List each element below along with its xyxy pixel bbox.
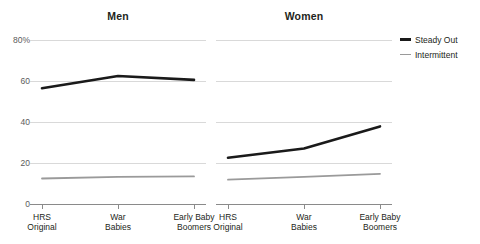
gridline-40 (30, 122, 206, 123)
x-tick-label: HRS Original (10, 212, 74, 233)
y-tick-label-0: 0 (4, 200, 30, 208)
panel-title-women: Women (216, 10, 392, 22)
x-tick-label: HRS Original (196, 212, 260, 233)
series-line-intermittent-men (42, 176, 194, 178)
gridline-20 (216, 163, 392, 164)
gridline-60 (30, 81, 206, 82)
y-axis-tick-labels: 020406080% (0, 0, 30, 244)
x-tick (118, 205, 119, 209)
legend-label-steady-out: Steady Out (415, 35, 458, 45)
legend-swatch-intermittent-icon (400, 54, 411, 56)
legend-item-intermittent[interactable]: Intermittent (400, 48, 480, 61)
panel-title-men: Men (30, 10, 206, 22)
x-tick (228, 205, 229, 209)
x-tick (304, 205, 305, 209)
legend-swatch-steady-out-icon (400, 38, 411, 41)
gridline-80 (216, 40, 392, 41)
gridline-20 (30, 163, 206, 164)
x-tick-label: War Babies (86, 212, 150, 233)
x-tick (42, 205, 43, 209)
y-tick-label-80: 80% (4, 36, 30, 44)
legend: Steady Out Intermittent (400, 33, 480, 63)
gridline-80 (30, 40, 206, 41)
x-tick (194, 205, 195, 209)
x-tick-label: Early Baby Boomers (348, 212, 412, 233)
y-tick-label-60: 60 (4, 77, 30, 85)
x-tick (380, 205, 381, 209)
series-line-steady-out-women (228, 126, 380, 157)
y-tick-label-40: 40 (4, 118, 30, 126)
chart-canvas: Men Women 020406080% HRS OriginalWar Bab… (0, 0, 480, 244)
gridline-60 (216, 81, 392, 82)
series-line-intermittent-women (228, 174, 380, 180)
legend-label-intermittent: Intermittent (415, 50, 458, 60)
y-tick-label-20: 20 (4, 159, 30, 167)
legend-item-steady-out[interactable]: Steady Out (400, 33, 480, 46)
x-tick-label: War Babies (272, 212, 336, 233)
series-line-steady-out-men (42, 76, 194, 88)
gridline-40 (216, 122, 392, 123)
